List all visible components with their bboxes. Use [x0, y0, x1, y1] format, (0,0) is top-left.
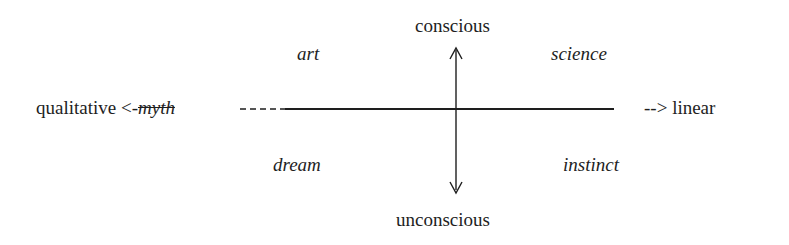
axes-graphic [0, 0, 789, 245]
